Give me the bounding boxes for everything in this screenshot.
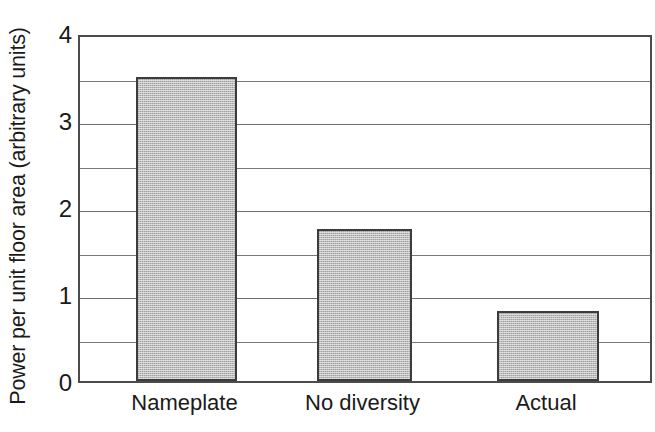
y-axis-tick-label: 3 bbox=[46, 110, 72, 134]
plot-area bbox=[78, 35, 652, 383]
y-axis-tick-label: 2 bbox=[46, 197, 72, 221]
y-axis-tick-label: 1 bbox=[46, 284, 72, 308]
x-axis-tick-label: Actual bbox=[515, 392, 576, 414]
y-axis-title: Power per unit floor area (arbitrary uni… bbox=[0, 0, 36, 432]
x-axis-tick-label: Nameplate bbox=[131, 392, 237, 414]
bar-chart-figure: Power per unit floor area (arbitrary uni… bbox=[0, 0, 655, 432]
bar-nameplate bbox=[136, 77, 237, 382]
y-axis-title-text: Power per unit floor area (arbitrary uni… bbox=[6, 27, 31, 404]
y-axis-tick-label: 4 bbox=[46, 23, 72, 47]
y-axis-tick-label: 0 bbox=[46, 371, 72, 395]
bar-no-diversity bbox=[317, 229, 412, 381]
x-axis-tick-label: No diversity bbox=[305, 392, 420, 414]
y-axis-tick-labels: 43210 bbox=[42, 0, 72, 432]
bar-actual bbox=[497, 311, 599, 381]
